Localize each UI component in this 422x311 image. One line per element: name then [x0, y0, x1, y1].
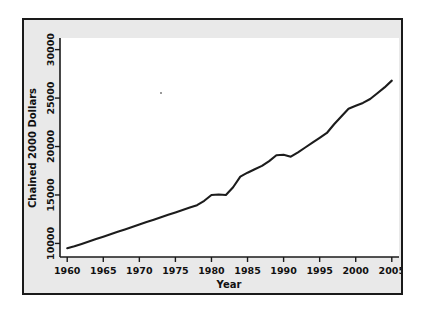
figure-panel: 1000015000200002500030000 19601965197019… — [22, 18, 403, 295]
y-tick-label: 15000 — [45, 178, 56, 211]
x-tick-label: 2005 — [379, 265, 401, 276]
y-tick-label: 25000 — [45, 81, 56, 114]
x-tick-label: 1990 — [270, 265, 297, 276]
x-tick-label: 1970 — [126, 265, 153, 276]
y-tick-label: 20000 — [45, 130, 56, 163]
x-axis-title: Year — [216, 279, 242, 290]
x-tick-label: 1960 — [54, 265, 81, 276]
x-tick-label: 1975 — [162, 265, 188, 276]
y-axis-tick-labels: 1000015000200002500030000 — [45, 33, 56, 260]
x-tick-label: 2000 — [342, 265, 369, 276]
line-chart: 1000015000200002500030000 19601965197019… — [24, 20, 401, 293]
x-tick-label: 1985 — [234, 265, 260, 276]
y-tick-label: 10000 — [45, 227, 56, 260]
scan-artifact-speck — [160, 92, 162, 94]
y-tick-label: 30000 — [45, 33, 56, 66]
x-axis-tick-labels: 1960196519701975198019851990199520002005 — [54, 265, 401, 276]
y-axis-title: Chained 2000 Dollars — [27, 88, 38, 208]
plot-area-background — [60, 38, 399, 257]
x-tick-label: 1965 — [90, 265, 116, 276]
x-tick-label: 1995 — [306, 265, 332, 276]
x-tick-label: 1980 — [198, 265, 225, 276]
